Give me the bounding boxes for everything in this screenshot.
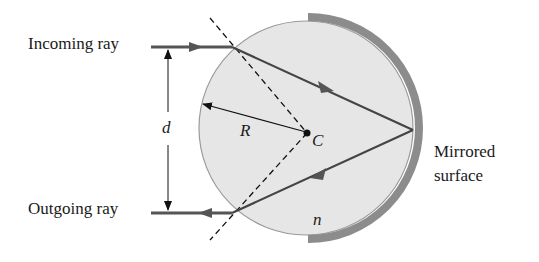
mirror-label-line2: surface (434, 166, 483, 186)
outgoing-ray-arrow-icon (198, 208, 212, 218)
distance-label: d (162, 118, 171, 138)
index-label: n (313, 210, 322, 230)
radius-label: R (240, 121, 250, 141)
incoming-ray-label: Incoming ray (28, 34, 119, 54)
diagram: Incoming ray Outgoing ray d R C n Mirror… (0, 0, 539, 262)
mirror-label-line1: Mirrored (434, 142, 495, 162)
sphere (199, 21, 413, 235)
center-label: C (312, 131, 323, 151)
center-point (304, 130, 311, 137)
outgoing-ray-label: Outgoing ray (28, 199, 118, 219)
incoming-ray-arrow-icon (189, 42, 203, 52)
